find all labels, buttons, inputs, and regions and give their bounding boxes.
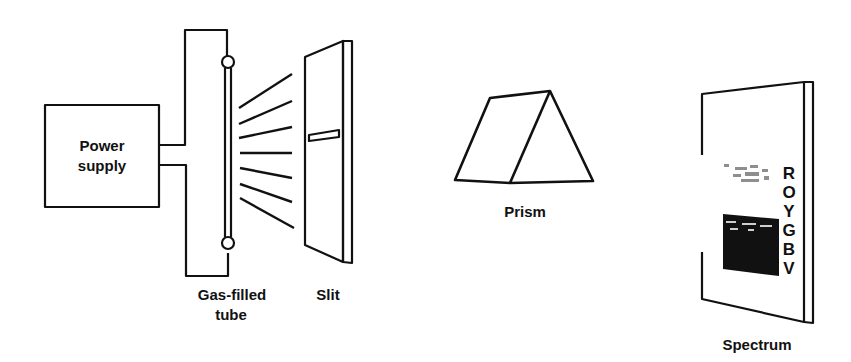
power-supply-label: Power	[79, 137, 124, 154]
spectrum-label: Spectrum	[722, 336, 791, 353]
wire-bottom	[159, 165, 228, 276]
prism-label: Prism	[504, 203, 546, 220]
power-supply-box	[45, 105, 159, 207]
slit-label: Slit	[316, 286, 339, 303]
wire-top	[159, 30, 227, 145]
spectrum-color-letters: R O Y G B V	[782, 164, 795, 278]
light-rays	[239, 74, 294, 228]
color-letter-r: R	[783, 164, 795, 183]
spectrum-screen	[702, 82, 813, 323]
color-letter-v: V	[783, 259, 795, 278]
gas-filled-tube	[222, 56, 234, 249]
color-letter-y: Y	[783, 202, 795, 221]
color-letter-g: G	[782, 221, 795, 240]
slit-panel	[305, 41, 352, 263]
spectroscope-diagram: Power supply Gas-filled tube Slit Prism …	[0, 0, 851, 362]
prism	[455, 91, 593, 183]
color-letter-o: O	[782, 183, 795, 202]
slit-opening	[309, 130, 339, 141]
color-letter-b: B	[783, 240, 795, 259]
spectrum-bands	[723, 164, 779, 276]
tube-label: Gas-filled	[198, 286, 266, 303]
power-supply-label-2: supply	[78, 157, 127, 174]
tube-label-2: tube	[215, 306, 247, 323]
